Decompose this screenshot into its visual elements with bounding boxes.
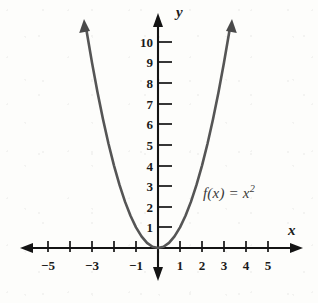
y-tick-label: 10: [131, 36, 153, 49]
y-tick-label: 2: [131, 201, 153, 214]
function-equation-label: f(x) = x2: [203, 183, 255, 202]
x-tick-label: 3: [213, 259, 235, 272]
x-tick-label: 2: [191, 259, 213, 272]
x-axis-right-arrowhead: [290, 243, 303, 253]
function-exponent: 2: [250, 183, 255, 194]
x-tick-label: −1: [124, 259, 148, 272]
y-tick-label: 8: [131, 77, 153, 90]
y-tick-label: 1: [131, 221, 153, 234]
y-tick-label: 9: [131, 56, 153, 69]
y-axis-ticks: [158, 42, 172, 227]
x-tick-label: 4: [235, 259, 257, 272]
parabola-left-arrowhead: [79, 19, 90, 33]
y-tick-label: 6: [131, 118, 153, 131]
x-tick-label: 5: [257, 259, 279, 272]
parabola-right-arrowhead: [226, 19, 237, 33]
y-tick-label: 3: [131, 180, 153, 193]
y-axis-name-label: y: [176, 4, 183, 21]
function-equation-text: f(x) = x: [203, 185, 250, 201]
x-tick-label: −3: [80, 259, 104, 272]
x-axis-left-arrowhead: [20, 243, 33, 253]
y-axis-bottom-arrowhead: [153, 267, 163, 281]
graph-figure: 10 9 8 7 6 5 4 3 2 1 −5 −3 −1 1 2 3 4 5 …: [0, 0, 318, 303]
x-tick-label: 1: [169, 259, 191, 272]
y-tick-label: 4: [131, 160, 153, 173]
x-axis-name-label: x: [288, 222, 296, 239]
y-tick-label: 5: [131, 139, 153, 152]
y-axis-top-arrowhead: [153, 13, 163, 27]
y-tick-label: 7: [131, 98, 153, 111]
x-tick-label: −5: [36, 259, 60, 272]
